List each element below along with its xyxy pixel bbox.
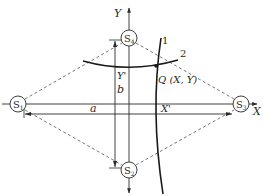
positioning-diagram: X Y a X' Y' b 2 1 Q (X, Y) S1 [0, 0, 268, 196]
baseline-s1-s2 [25, 110, 122, 165]
station-s2: S2 [121, 162, 137, 178]
hyperbola-curve-2 [83, 60, 178, 67]
station-s4: S4 [121, 30, 137, 46]
station-s1: S1 [10, 96, 26, 112]
dimension-a-label: a [90, 102, 97, 115]
point-q-label: Q (X, Y) [158, 74, 197, 85]
hyperbola-curve-1 [156, 38, 163, 194]
station-s3: S3 [233, 96, 249, 112]
dimension-b-label: b [117, 83, 124, 96]
curve-1-label: 1 [162, 35, 168, 46]
y-axis-label: Y [114, 7, 123, 20]
y-prime-label: Y' [117, 70, 126, 81]
baseline-s1-s4 [25, 43, 122, 99]
point-q-marker [154, 64, 158, 68]
baseline-s2-s3 [136, 110, 234, 165]
curve-2-label: 2 [180, 48, 186, 59]
x-axis-label: X [252, 105, 262, 118]
x-prime-label: X' [160, 103, 171, 114]
